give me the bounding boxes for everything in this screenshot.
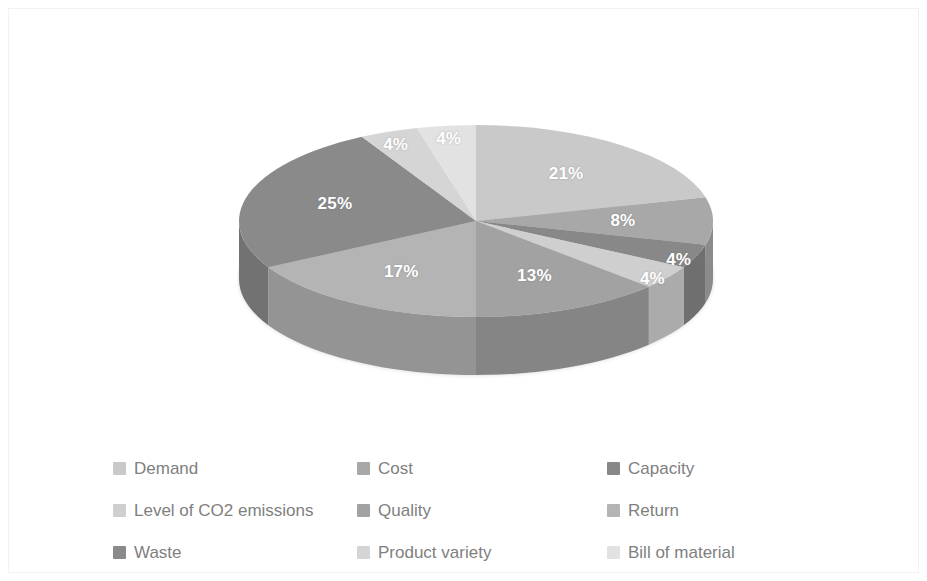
legend-item[interactable]: Capacity: [607, 447, 853, 489]
legend-item[interactable]: Waste: [113, 531, 357, 573]
pie-chart: 21%8%4%4%13%17%25%4%4%: [237, 121, 715, 411]
pie-svg: [237, 121, 715, 411]
legend-item[interactable]: Bill of material: [607, 531, 853, 573]
legend-label: Demand: [134, 460, 198, 477]
legend-color-swatch: [357, 504, 370, 517]
legend-item[interactable]: Level of CO2 emissions: [113, 489, 357, 531]
legend-item[interactable]: Product variety: [357, 531, 607, 573]
legend-color-swatch: [357, 462, 370, 475]
legend-color-swatch: [607, 504, 620, 517]
legend-color-swatch: [357, 546, 370, 559]
legend-color-swatch: [113, 504, 126, 517]
legend-label: Level of CO2 emissions: [134, 502, 314, 519]
legend-item[interactable]: Quality: [357, 489, 607, 531]
plot-frame: 21%8%4%4%13%17%25%4%4% DemandCostCapacit…: [8, 8, 919, 573]
legend-label: Return: [628, 502, 679, 519]
legend-item[interactable]: Return: [607, 489, 853, 531]
legend-item[interactable]: Cost: [357, 447, 607, 489]
pie-top-faces: [239, 125, 713, 317]
legend-label: Bill of material: [628, 544, 735, 561]
legend-label: Quality: [378, 502, 431, 519]
legend-label: Waste: [134, 544, 182, 561]
legend-color-swatch: [607, 462, 620, 475]
legend-item[interactable]: Demand: [113, 447, 357, 489]
chart-figure: 21%8%4%4%13%17%25%4%4% DemandCostCapacit…: [0, 0, 927, 581]
legend-label: Cost: [378, 460, 413, 477]
legend-label: Capacity: [628, 460, 694, 477]
legend-color-swatch: [607, 546, 620, 559]
legend-label: Product variety: [378, 544, 491, 561]
chart-legend: DemandCostCapacityLevel of CO2 emissions…: [113, 447, 853, 573]
legend-color-swatch: [113, 462, 126, 475]
legend-color-swatch: [113, 546, 126, 559]
